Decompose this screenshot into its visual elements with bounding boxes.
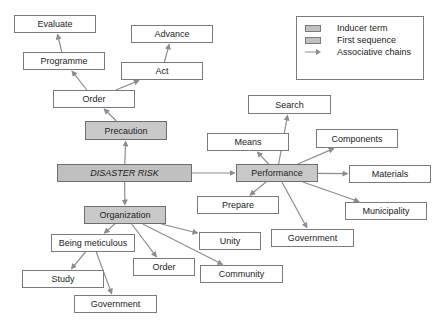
node-precaution: Precaution [85,121,167,140]
edge-precaution-to-order_top [104,109,116,121]
edge-order_top-to-act [116,81,139,90]
edge-organization-to-unity [161,224,197,233]
node-materials: Materials [349,165,431,183]
edge-programme-to-evaluate [58,34,62,52]
node-act: Act [121,62,203,80]
legend-item-inducer: Inducer term [305,22,321,34]
node-community: Community [200,265,283,283]
node-means: Means [207,133,289,151]
legend-label: Associative chains [337,47,411,57]
node-performance: Performance [236,164,318,182]
edge-being_meticulous-to-study [71,252,85,269]
node-search: Search [248,95,331,114]
legend-label: First sequence [337,35,396,45]
node-programme: Programme [23,52,105,70]
node-government-bottom: Government [74,295,157,313]
edge-order_top-to-programme [72,71,87,90]
edge-performance-to-components [298,149,334,164]
node-order-top: Order [53,90,135,108]
legend-item-associative: Associative chains [305,46,323,58]
node-unity: Unity [199,232,261,250]
node-advance: Advance [131,25,213,43]
edge-performance-to-municipality [303,182,359,202]
legend-label: Inducer term [337,23,388,33]
edge-performance-to-prepare [250,182,266,195]
edge-organization-to-being_meticulous [104,224,114,233]
concept-diagram: DISASTER RISK Precaution Performance Org… [0,0,443,328]
node-prepare: Prepare [197,196,279,214]
node-organization: Organization [84,206,166,224]
node-study: Study [22,270,104,288]
edge-performance-to-government_right [282,182,307,228]
edge-disaster_risk-to-precaution [125,141,126,164]
edge-act-to-advance [164,44,169,62]
node-evaluate: Evaluate [14,15,96,33]
first-sequence-swatch-icon [305,37,321,44]
legend: Inducer term First sequence Associative … [296,16,424,80]
edge-performance-to-means [257,152,268,164]
legend-item-first-sequence: First sequence [305,34,321,46]
node-municipality: Municipality [345,202,427,220]
inducer-swatch-icon [305,25,321,32]
node-being-meticulous: Being meticulous [51,234,135,252]
node-disaster-risk: DISASTER RISK [57,164,192,182]
node-government-right: Government [271,229,354,247]
node-components: Components [316,129,398,148]
node-order-bottom: Order [133,258,195,276]
arrow-icon [305,48,323,56]
